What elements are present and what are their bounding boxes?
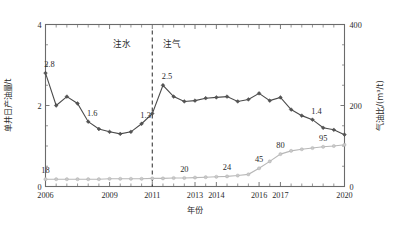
- data-point: [76, 178, 79, 181]
- left-y-axis-title: 单井日产油量/t: [3, 78, 13, 133]
- chart-figure: 024 0200400 2006200920112013201420162017…: [0, 0, 394, 232]
- data-point: [225, 175, 228, 178]
- data-value-label: 2.5: [162, 72, 172, 81]
- data-point: [183, 176, 186, 179]
- left-y-tick-label: 2: [37, 102, 41, 111]
- left-y-tick-label: 4: [37, 21, 41, 30]
- data-point: [257, 167, 260, 170]
- data-point: [140, 177, 143, 180]
- data-point: [151, 177, 154, 180]
- data-point: [65, 178, 68, 181]
- x-tick-label: 2020: [336, 191, 352, 200]
- plot-border: [46, 25, 345, 187]
- data-point: [268, 160, 271, 163]
- data-point: [129, 177, 132, 180]
- data-value-label: 95: [319, 134, 327, 143]
- data-value-label: 80: [276, 141, 284, 150]
- x-tick-label: 2009: [101, 191, 117, 200]
- data-value-label: 45: [255, 155, 263, 164]
- data-value-label: 1.4: [311, 107, 322, 116]
- right-y-tick-label: 200: [350, 102, 362, 111]
- data-point: [279, 153, 282, 156]
- data-point: [108, 177, 111, 180]
- right-y-tick-label: 400: [350, 21, 362, 30]
- data-point: [290, 149, 293, 152]
- plot-frame: [46, 25, 345, 187]
- annotation-water-injection: 注水: [113, 38, 131, 49]
- data-point: [55, 178, 58, 181]
- right-y-axis-title: 气油比/(m³/t): [375, 80, 385, 130]
- data-point: [322, 145, 325, 148]
- data-point: [193, 176, 196, 179]
- data-point: [204, 176, 207, 179]
- data-point: [172, 176, 175, 179]
- annotation-gas-injection: 注气: [163, 38, 181, 49]
- data-point: [215, 175, 218, 178]
- x-tick-label: 2017: [272, 191, 288, 200]
- data-point: [236, 174, 239, 177]
- x-tick-label: 2011: [144, 191, 160, 200]
- data-value-label: 1.6: [87, 109, 97, 118]
- data-value-label: 2.8: [44, 60, 54, 69]
- data-point: [343, 143, 346, 146]
- data-point: [97, 178, 100, 181]
- data-point: [119, 177, 122, 180]
- data-value-label: 18: [41, 166, 49, 175]
- x-tick-label: 2013: [187, 191, 203, 200]
- data-value-label: 24: [223, 163, 232, 172]
- data-value-label: 1.3: [140, 111, 150, 120]
- x-tick-label: 2016: [251, 191, 267, 200]
- data-point: [247, 173, 250, 176]
- data-point: [44, 178, 47, 181]
- data-point: [300, 148, 303, 151]
- line-chart-canvas: 024 0200400 2006200920112013201420162017…: [0, 0, 394, 232]
- x-axis-title: 年份: [187, 205, 203, 215]
- x-tick-label: 2006: [37, 191, 53, 200]
- data-point: [87, 178, 90, 181]
- data-point: [311, 146, 314, 149]
- data-point: [161, 177, 164, 180]
- data-point: [332, 144, 335, 147]
- data-value-label: 20: [180, 165, 188, 174]
- x-tick-label: 2014: [208, 191, 224, 200]
